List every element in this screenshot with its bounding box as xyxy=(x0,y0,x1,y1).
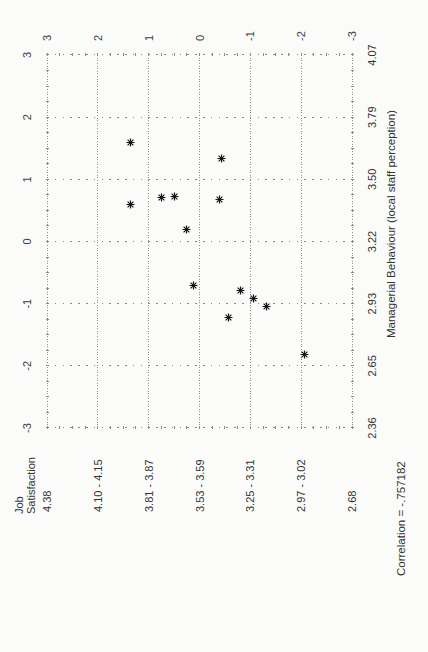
minor-tick xyxy=(351,86,354,87)
top-axis-tick-label: -3 xyxy=(21,423,33,433)
data-point-marker xyxy=(212,154,221,163)
y-value-label: 2.97 - 3.02 xyxy=(295,459,307,512)
x-value-label: 2.93 xyxy=(366,293,378,314)
minor-tick xyxy=(351,210,354,211)
minor-tick xyxy=(288,427,289,430)
correlation-caption: Correlation = -.757182 xyxy=(395,461,407,576)
minor-tick xyxy=(46,132,49,133)
minor-tick xyxy=(313,427,314,430)
top-axis-tick-label: -1 xyxy=(21,299,33,309)
minor-tick xyxy=(46,86,49,87)
minor-tick xyxy=(148,54,149,57)
data-point-marker xyxy=(257,302,266,311)
right-axis-tick-label: 3 xyxy=(41,35,53,41)
x-value-label: 3.50 xyxy=(366,169,378,190)
asterisk-marker-icon xyxy=(300,350,309,359)
minor-tick xyxy=(351,272,354,273)
minor-tick xyxy=(275,427,276,430)
right-axis-tick-label: -3 xyxy=(346,31,358,41)
minor-tick xyxy=(339,54,340,57)
minor-tick xyxy=(46,179,49,180)
minor-tick xyxy=(161,54,162,57)
minor-tick xyxy=(46,163,49,164)
minor-tick xyxy=(97,427,98,430)
data-point-marker xyxy=(210,195,219,204)
minor-tick xyxy=(263,54,264,57)
minor-tick xyxy=(46,194,49,195)
x-axis-title: Managerial Behaviour (local staff percep… xyxy=(385,110,397,338)
y-value-label: 4.10 - 4.15 xyxy=(92,459,104,512)
minor-tick xyxy=(351,241,354,242)
data-point-marker xyxy=(295,350,304,359)
minor-tick xyxy=(72,427,73,430)
minor-tick xyxy=(135,54,136,57)
y-value-label: 4.38 xyxy=(41,491,53,512)
asterisk-marker-icon xyxy=(182,225,191,234)
top-axis-tick-label: 3 xyxy=(21,52,33,58)
minor-tick xyxy=(161,427,162,430)
gridline-job-std--1 xyxy=(250,55,251,428)
minor-tick xyxy=(351,303,354,304)
minor-tick xyxy=(59,54,60,57)
minor-tick xyxy=(85,54,86,57)
scatter-chart: Job Satisfaction Managerial Behaviour (l… xyxy=(0,0,428,652)
right-axis-tick-label: -1 xyxy=(244,31,256,41)
minor-tick xyxy=(46,70,49,71)
right-axis-tick-label: 1 xyxy=(143,35,155,41)
y-value-label: 3.25 - 3.31 xyxy=(244,459,256,512)
minor-tick xyxy=(97,54,98,57)
minor-tick xyxy=(351,117,354,118)
minor-tick xyxy=(250,427,251,430)
minor-tick xyxy=(186,54,187,57)
minor-tick xyxy=(224,54,225,57)
minor-tick xyxy=(351,179,354,180)
minor-tick xyxy=(46,288,49,289)
top-axis-tick-label: -2 xyxy=(21,361,33,371)
minor-tick xyxy=(351,334,354,335)
right-axis-tick-label: -2 xyxy=(295,31,307,41)
minor-tick xyxy=(351,365,354,366)
y-value-label: 3.53 - 3.59 xyxy=(194,459,206,512)
minor-tick xyxy=(110,54,111,57)
minor-tick xyxy=(263,427,264,430)
x-value-label: 3.22 xyxy=(366,231,378,252)
minor-tick xyxy=(339,427,340,430)
minor-tick xyxy=(351,319,354,320)
data-point-marker xyxy=(177,225,186,234)
right-axis-tick-label: 0 xyxy=(194,35,206,41)
right-axis-tick-label: 2 xyxy=(92,35,104,41)
y-axis-title-line2: Satisfaction xyxy=(26,457,38,514)
y-axis-title-line1: Job xyxy=(14,457,26,514)
minor-tick xyxy=(288,54,289,57)
minor-tick xyxy=(351,101,354,102)
x-value-label: 2.65 xyxy=(366,355,378,376)
minor-tick xyxy=(351,148,354,149)
data-point-marker xyxy=(165,192,174,201)
minor-tick xyxy=(47,427,48,430)
minor-tick xyxy=(59,427,60,430)
asterisk-marker-icon xyxy=(215,195,224,204)
y-value-label: 3.81 - 3.87 xyxy=(143,459,155,512)
minor-tick xyxy=(351,350,354,351)
minor-tick xyxy=(224,427,225,430)
gridline-mgr-std-0 xyxy=(47,241,352,242)
minor-tick xyxy=(351,288,354,289)
x-value-label: 3.79 xyxy=(366,106,378,127)
minor-tick xyxy=(46,412,49,413)
minor-tick xyxy=(110,427,111,430)
asterisk-marker-icon xyxy=(224,313,233,322)
minor-tick xyxy=(46,257,49,258)
gridline-mgr-std--1 xyxy=(47,303,352,304)
y-value-label: 2.68 xyxy=(346,491,358,512)
minor-tick xyxy=(199,54,200,57)
minor-tick xyxy=(148,427,149,430)
minor-tick xyxy=(237,54,238,57)
asterisk-marker-icon xyxy=(217,154,226,163)
minor-tick xyxy=(237,427,238,430)
x-value-label: 2.36 xyxy=(366,417,378,438)
minor-tick xyxy=(46,303,49,304)
gridline-mgr-std--2 xyxy=(47,365,352,366)
minor-tick xyxy=(123,427,124,430)
data-point-marker xyxy=(121,138,130,147)
minor-tick xyxy=(351,396,354,397)
